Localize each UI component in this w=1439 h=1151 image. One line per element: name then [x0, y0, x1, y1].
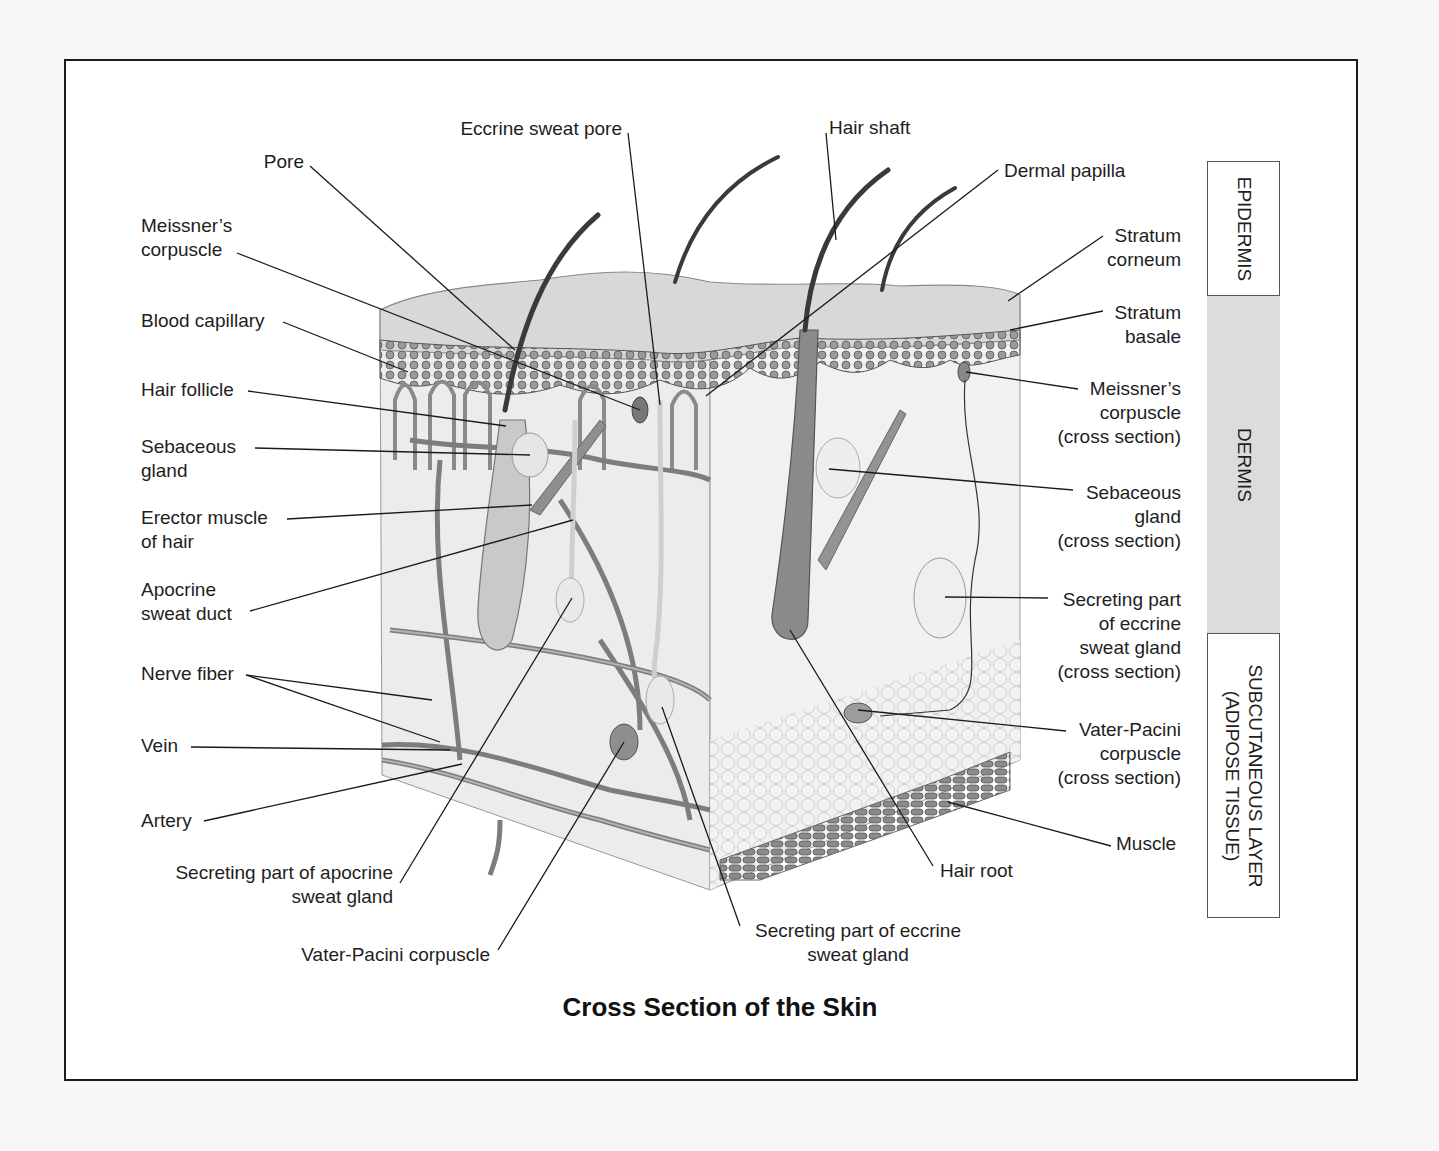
layer-band-dermis: DERMIS [1207, 296, 1280, 633]
label-eccrine-cross-section: Secreting part of eccrine sweat gland (c… [1030, 588, 1181, 684]
label-hair-shaft: Hair shaft [829, 116, 910, 140]
label-artery: Artery [141, 809, 192, 833]
layer-band-subcutaneous: SUBCUTANEOUS LAYER (ADIPOSE TISSUE) [1207, 633, 1280, 918]
layer-band-epidermis: EPIDERMIS [1207, 161, 1280, 296]
eccrine-gland-coil [646, 676, 674, 724]
label-nerve-fiber: Nerve fiber [141, 662, 234, 686]
label-erector-muscle: Erector muscle of hair [141, 506, 268, 554]
label-stratum-basale: Stratum basale [1060, 301, 1181, 349]
label-meissner-cross-section: Meissner’s corpuscle (cross section) [1030, 377, 1181, 449]
label-apocrine-sweat-duct: Apocrine sweat duct [141, 578, 232, 626]
label-vater-pacini: Vater-Pacini corpuscle [270, 943, 490, 967]
label-blood-capillary: Blood capillary [141, 309, 265, 333]
label-hair-follicle: Hair follicle [141, 378, 234, 402]
layer-label-epidermis: EPIDERMIS [1232, 176, 1255, 281]
label-stratum-corneum: Stratum corneum [1060, 224, 1181, 272]
label-pore: Pore [226, 150, 304, 174]
label-muscle: Muscle [1116, 832, 1176, 856]
block-right-face [710, 300, 1020, 890]
vater-pacini-cross-section [844, 703, 872, 723]
label-sebaceous-gland: Sebaceous gland [141, 435, 236, 483]
label-secreting-eccrine: Secreting part of eccrine sweat gland [740, 919, 976, 967]
apocrine-gland-coil [556, 578, 584, 622]
layer-label-subcutaneous: SUBCUTANEOUS LAYER (ADIPOSE TISSUE) [1221, 664, 1267, 887]
label-dermal-papilla: Dermal papilla [1004, 159, 1125, 183]
label-sebaceous-cross-section: Sebaceous gland (cross section) [1030, 481, 1181, 553]
sebaceous-gland-cross-section [816, 438, 860, 498]
eccrine-gland-cross-section [914, 558, 966, 638]
layer-label-dermis: DERMIS [1232, 428, 1255, 502]
label-secreting-apocrine: Secreting part of apocrine sweat gland [140, 861, 393, 909]
label-meissners-corpuscle: Meissner’s corpuscle [141, 214, 232, 262]
label-eccrine-sweat-pore: Eccrine sweat pore [430, 117, 622, 141]
label-vater-pacini-cross-section: Vater-Pacini corpuscle (cross section) [1030, 718, 1181, 790]
figure-title: Cross Section of the Skin [480, 992, 960, 1023]
label-vein: Vein [141, 734, 178, 758]
label-hair-root: Hair root [940, 859, 1013, 883]
